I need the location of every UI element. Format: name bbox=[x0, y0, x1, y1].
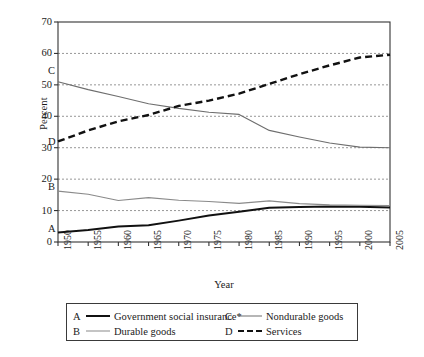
legend-swatch-line bbox=[86, 331, 110, 332]
legend-entry-d: DServices bbox=[225, 324, 302, 338]
chart-svg bbox=[0, 0, 424, 295]
chart-legend: AGovernment social insurance*BDurable go… bbox=[66, 303, 358, 341]
legend-swatch-line bbox=[238, 316, 262, 317]
series-tag-b: B bbox=[48, 182, 55, 193]
series-tag-d: D bbox=[48, 137, 56, 148]
legend-swatch-line bbox=[86, 315, 110, 317]
chart-plot-area: Percent 010203040506070 1950195519601965… bbox=[0, 0, 424, 295]
series-line-c bbox=[58, 82, 390, 148]
series-line-b bbox=[58, 191, 390, 205]
legend-entries: AGovernment social insurance*BDurable go… bbox=[73, 308, 353, 338]
legend-entry-c: CNondurable goods bbox=[225, 309, 343, 323]
legend-entry-a: AGovernment social insurance* bbox=[73, 309, 242, 323]
legend-label-a: Government social insurance* bbox=[114, 311, 242, 322]
x-axis-title: Year bbox=[58, 279, 390, 290]
legend-swatch-c bbox=[237, 311, 263, 321]
legend-key-c: C bbox=[225, 311, 236, 322]
legend-key-b: B bbox=[73, 326, 84, 337]
legend-swatch-d bbox=[237, 326, 263, 336]
figure-line-chart: Percent 010203040506070 1950195519601965… bbox=[0, 0, 424, 357]
legend-swatch-b bbox=[85, 326, 111, 336]
plot-frame bbox=[58, 22, 390, 242]
legend-swatch-a bbox=[85, 311, 111, 321]
legend-entry-b: BDurable goods bbox=[73, 324, 176, 338]
legend-swatch-line bbox=[238, 330, 262, 332]
legend-key-a: A bbox=[73, 311, 84, 322]
legend-label-d: Services bbox=[266, 326, 302, 337]
legend-label-c: Nondurable goods bbox=[266, 311, 343, 322]
series-line-d bbox=[58, 55, 390, 142]
legend-label-b: Durable goods bbox=[114, 326, 176, 337]
series-tag-c: C bbox=[48, 66, 55, 77]
legend-key-d: D bbox=[225, 326, 236, 337]
series-tag-a: A bbox=[48, 224, 56, 235]
